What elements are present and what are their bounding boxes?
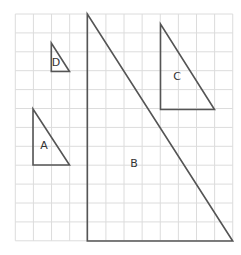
- label-b: B: [130, 157, 138, 170]
- grid-diagram: A B C D: [0, 0, 241, 255]
- triangle-c: [161, 24, 215, 110]
- label-a: A: [40, 139, 48, 152]
- label-c: C: [173, 70, 181, 83]
- background-grid: [15, 14, 232, 241]
- label-d: D: [52, 56, 60, 69]
